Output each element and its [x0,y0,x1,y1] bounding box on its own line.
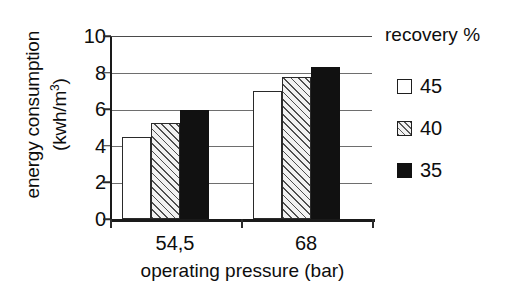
legend-title: recovery % [385,24,515,46]
legend-swatch-45 [397,79,412,94]
legend-item-45: 45 [397,76,515,96]
bar-54.5-recovery-45 [122,137,151,219]
plot-area [110,36,372,219]
y-tick-label-0: 0 [60,209,106,229]
legend-item-35: 35 [397,160,515,180]
bar-chart-figure: energy consumption (kwh/m3) 10 8 6 4 2 0 [0,0,517,290]
legend-label-35: 35 [420,160,442,180]
y-tick-label-8: 8 [60,63,106,83]
bar-54.5-recovery-40 [151,123,180,219]
x-tick-mark-left [110,219,112,228]
legend-swatch-40 [397,121,412,136]
bar-54.5-recovery-35 [180,110,209,219]
legend-item-40: 40 [397,118,515,138]
legend-label-40: 40 [420,118,442,138]
y-tick-label-2: 2 [60,172,106,192]
y-tick-label-10: 10 [60,26,106,46]
x-tick-label-68: 68 [295,232,317,254]
x-axis-line [110,219,375,222]
legend-label-45: 45 [420,76,442,96]
y-tick-label-4: 4 [60,136,106,156]
scan-edge-artifact [505,0,517,290]
legend-swatch-35 [397,163,412,178]
y-tick-label-6: 6 [60,99,106,119]
x-tick-label-54.5: 54,5 [156,232,195,254]
bar-68-recovery-45 [253,91,282,219]
bar-68-recovery-35 [311,67,340,219]
legend: recovery % 45 40 35 [385,24,515,202]
x-tick-mark-right [372,219,374,228]
x-axis-title: operating pressure (bar) [110,260,375,282]
bar-68-recovery-40 [282,77,311,219]
y-axis-title-line1: energy consumption [22,31,43,199]
y-axis-tick-labels: 10 8 6 4 2 0 [58,0,106,240]
x-tick-mark-middle [241,219,243,228]
